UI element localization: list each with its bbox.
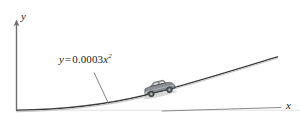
equation-label: y=0.0003x2 [59, 53, 112, 65]
figure-container: y=0.0003x2 y x [0, 0, 300, 131]
y-axis [14, 20, 20, 111]
equation-exponent: 2 [108, 52, 112, 60]
x-axis-label: x [286, 99, 291, 111]
car-illustration [140, 78, 178, 101]
y-axis-label: y [21, 10, 26, 22]
figure-canvas [0, 0, 300, 131]
equation-coefficient: 0.0003 [72, 53, 103, 65]
equation-leader-line [94, 73, 109, 104]
road-curve-path [17, 57, 278, 110]
road-curve-shadow [17, 58, 278, 111]
road-curve [17, 57, 278, 112]
